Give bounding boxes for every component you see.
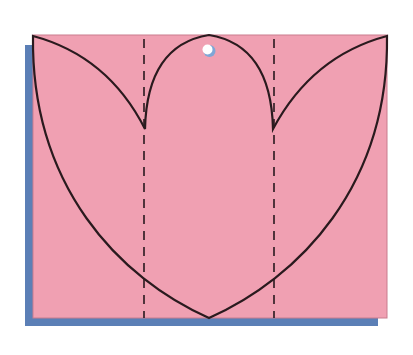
hole	[203, 45, 213, 55]
pink-card	[33, 35, 387, 318]
tulip-template-diagram	[0, 0, 413, 355]
